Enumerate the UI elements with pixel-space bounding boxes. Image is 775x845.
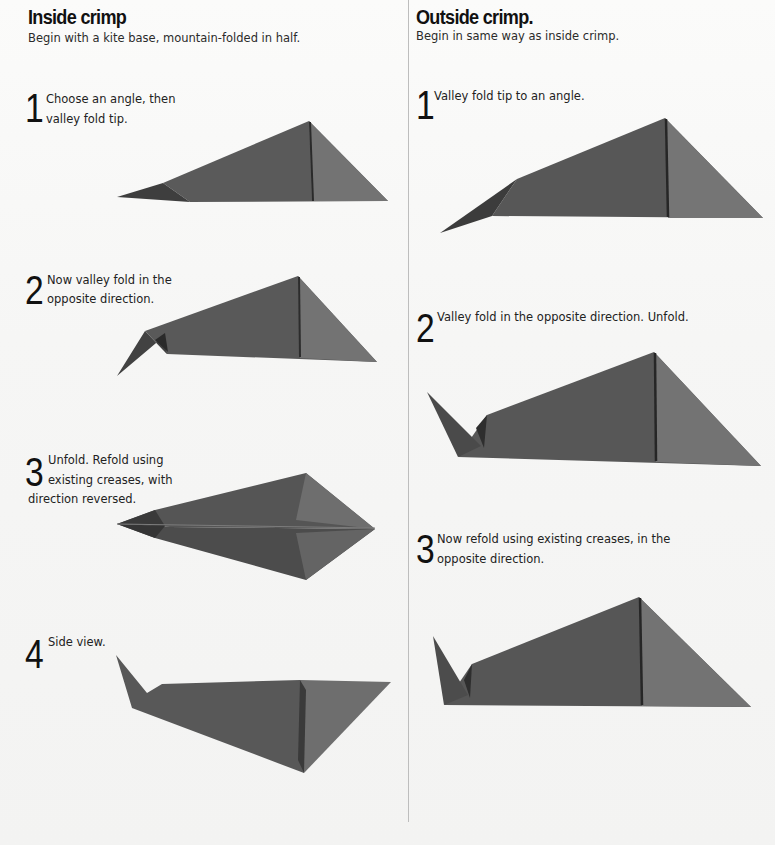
origami-figure-outside-3	[0, 0, 775, 845]
